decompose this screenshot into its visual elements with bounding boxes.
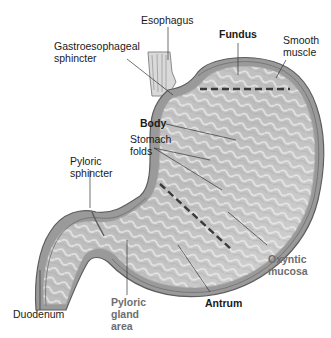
label-pyloric-gland-area: Pyloric gland area <box>111 296 146 332</box>
label-fundus: Fundus <box>219 28 257 40</box>
label-gastroesophageal-sphincter: Gastroesophageal sphincter <box>54 40 140 64</box>
label-stomach-folds: Stomach folds <box>130 133 171 157</box>
stomach-diagram: Esophagus Gastroesophageal sphincter Fun… <box>0 0 331 338</box>
label-body: Body <box>140 117 166 129</box>
label-smooth-muscle: Smooth muscle <box>283 34 319 58</box>
label-duodenum: Duodenum <box>13 308 64 320</box>
label-pyloric-sphincter: Pyloric sphincter <box>70 155 113 179</box>
label-esophagus: Esophagus <box>141 14 194 26</box>
label-oxyntic-mucosa: Oxyntic mucosa <box>268 253 308 277</box>
label-antrum: Antrum <box>205 297 242 309</box>
